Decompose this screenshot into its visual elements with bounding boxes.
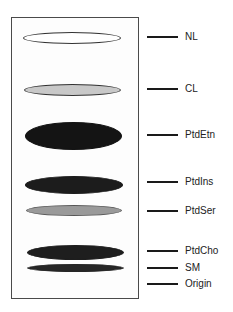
tlc-diagram: NL CL PtdEtn PtdIns PtdSer PtdCho SM Ori…	[0, 0, 233, 312]
marker-line-sm	[147, 267, 178, 269]
label-sm: SM	[185, 263, 200, 273]
label-ptdins: PtdIns	[185, 177, 213, 187]
spot-ptdcho	[27, 245, 124, 260]
marker-line-ptdser	[147, 210, 178, 212]
marker-line-ptdcho	[147, 250, 178, 252]
marker-line-ptdetn	[147, 134, 178, 136]
label-nl: NL	[185, 32, 198, 42]
spot-cl	[24, 84, 121, 96]
spot-sm	[27, 264, 124, 272]
marker-line-cl	[147, 88, 178, 90]
label-ptdcho: PtdCho	[185, 246, 218, 256]
spot-ptdetn	[25, 122, 122, 150]
spot-nl	[23, 32, 121, 44]
marker-line-origin	[147, 283, 178, 285]
spot-ptdins	[25, 176, 123, 194]
label-ptdser: PtdSer	[185, 206, 216, 216]
label-ptdetn: PtdEtn	[185, 130, 215, 140]
label-origin: Origin	[185, 279, 212, 289]
spot-ptdser	[26, 205, 122, 216]
marker-line-nl	[147, 36, 178, 38]
label-cl: CL	[185, 84, 198, 94]
marker-line-ptdins	[147, 181, 178, 183]
